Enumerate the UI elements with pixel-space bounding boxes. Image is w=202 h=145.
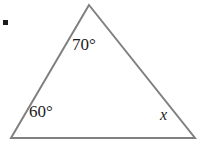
triangle-shape (0, 0, 202, 145)
apex-angle-label: 70° (72, 36, 96, 53)
bottom-right-angle-label: x (160, 107, 167, 123)
geometry-figure-canvas: 70° 60° x (0, 0, 202, 145)
bottom-left-angle-label: 60° (29, 103, 53, 120)
